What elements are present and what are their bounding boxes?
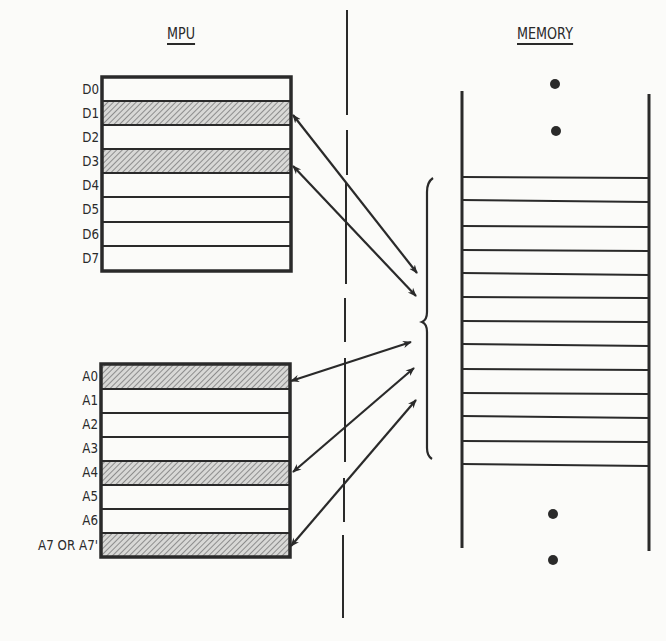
address-register-block	[101, 364, 290, 557]
transfer-arrows	[291, 115, 417, 546]
arrow-a4-memory	[293, 368, 414, 472]
ellipsis-dot-bottom-2	[548, 555, 558, 565]
data-register-block	[102, 77, 291, 271]
arrow-a0-memory	[291, 342, 411, 381]
register-d1-hatched	[103, 101, 290, 125]
register-a0-hatched	[102, 365, 289, 388]
ellipsis-dot-bottom-1	[548, 509, 558, 519]
register-d3-hatched	[103, 149, 290, 173]
ellipsis-dot-top-2	[551, 126, 561, 136]
arrow-d3-memory	[293, 166, 416, 296]
register-a7-hatched	[102, 533, 289, 556]
ellipsis-dot-top-1	[550, 79, 560, 89]
memory-range-brace	[422, 178, 433, 459]
memory-cell-dividers	[462, 177, 649, 466]
memory-block	[462, 79, 649, 565]
diagram-canvas	[0, 0, 666, 641]
mpu-memory-divider	[343, 10, 347, 618]
arrow-a7-memory	[291, 400, 416, 546]
arrow-d1-memory	[293, 115, 417, 273]
register-a4-hatched	[102, 461, 289, 485]
